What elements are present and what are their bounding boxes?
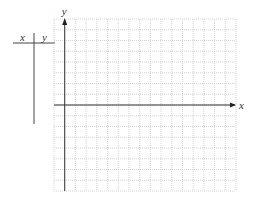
x-axis-label: x [238, 99, 244, 111]
xy-table: x y [13, 31, 55, 124]
table-header-y: y [41, 31, 47, 43]
y-axis-label: y [61, 5, 67, 17]
table-header-x: x [19, 31, 25, 43]
axes: x y [54, 5, 244, 191]
x-axis-arrow-icon [230, 103, 236, 108]
coordinate-worksheet: x y x y [0, 0, 253, 203]
